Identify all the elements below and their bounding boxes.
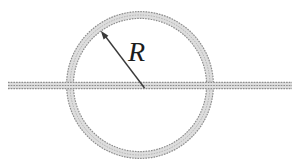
straight-wire bbox=[8, 82, 292, 88]
diagram-canvas: R bbox=[0, 0, 304, 166]
radius-label: R bbox=[127, 36, 145, 67]
loop-and-wire-figure: R bbox=[0, 0, 304, 166]
